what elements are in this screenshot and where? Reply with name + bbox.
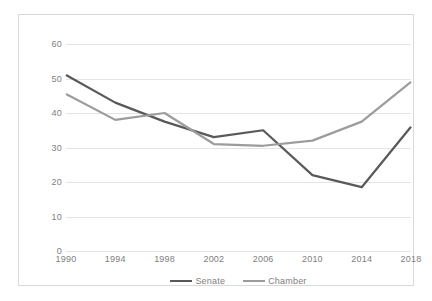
legend-label: Senate	[195, 276, 225, 286]
y-axis-tick-label: 10	[52, 212, 62, 222]
gridline	[66, 251, 411, 252]
y-axis-tick-label: 20	[52, 177, 62, 187]
chart-screenshot: 0102030405060 19901994199820022006201020…	[0, 0, 432, 301]
chart-frame: 0102030405060 19901994199820022006201020…	[18, 14, 414, 286]
series-layer	[66, 44, 411, 251]
plot-area	[66, 44, 411, 251]
y-axis-tick-label: 30	[52, 143, 62, 153]
x-axis-tick-labels: 19901994199820022006201020142018	[66, 254, 411, 270]
legend-label: Chamber	[268, 276, 306, 286]
series-line	[66, 82, 411, 146]
chart-legend: SenateChamber	[66, 273, 411, 289]
x-axis-tick-label: 2018	[401, 254, 422, 264]
x-axis-tick-label: 2006	[253, 254, 274, 264]
x-axis-tick-label: 2002	[203, 254, 224, 264]
x-axis-tick-label: 1990	[56, 254, 77, 264]
x-axis-tick-label: 1994	[105, 254, 126, 264]
y-axis-tick-label: 60	[52, 39, 62, 49]
legend-line-swatch	[243, 280, 265, 282]
y-axis-tick-labels: 0102030405060	[37, 44, 62, 251]
y-axis-tick-label: 40	[52, 108, 62, 118]
y-axis-tick-label: 50	[52, 74, 62, 84]
x-axis-tick-label: 2010	[302, 254, 323, 264]
x-axis-tick-label: 2014	[351, 254, 372, 264]
series-line	[66, 75, 411, 187]
x-axis-tick-label: 1998	[154, 254, 175, 264]
legend-item[interactable]: Chamber	[243, 276, 306, 286]
legend-item[interactable]: Senate	[170, 276, 225, 286]
legend-line-swatch	[170, 280, 192, 282]
